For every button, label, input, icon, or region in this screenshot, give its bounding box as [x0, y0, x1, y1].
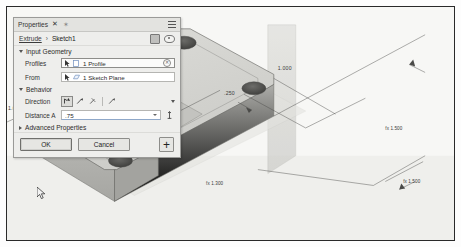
- measure-icon[interactable]: [164, 110, 175, 121]
- dimension-label-hole-diameter-upper: fx 1.500: [385, 126, 402, 131]
- dimension-label-hole-diameter-right: fx 1.300: [206, 181, 223, 186]
- panel-title: Properties: [18, 21, 48, 28]
- chevron-down-icon: [19, 88, 23, 91]
- panel-titlebar: Properties ✕ ✶: [14, 18, 180, 32]
- section-label-behavior: Behavior: [26, 86, 52, 93]
- breadcrumb-current[interactable]: Sketch1: [52, 35, 76, 42]
- section-behavior[interactable]: Behavior: [14, 84, 180, 94]
- apply-button[interactable]: +: [159, 137, 174, 152]
- hole-right[interactable]: [242, 82, 266, 95]
- field-direction[interactable]: Direction: [14, 94, 180, 108]
- field-from[interactable]: From 1 Sketch Plane: [14, 70, 180, 84]
- select-arrow-icon: [65, 60, 70, 67]
- direction-button-group[interactable]: [61, 96, 175, 107]
- direction-asymmetric-button[interactable]: [106, 96, 118, 107]
- section-input-geometry[interactable]: Input Geometry: [14, 46, 180, 56]
- breadcrumb: Extrude › Sketch1: [14, 32, 180, 46]
- field-label-profiles: Profiles: [19, 60, 61, 67]
- chevron-right-icon: [19, 126, 22, 130]
- sketch-plane-icon: [73, 74, 80, 81]
- direction-flipped-button[interactable]: [74, 96, 86, 107]
- clear-icon[interactable]: ✕: [163, 59, 171, 67]
- section-label-input-geometry: Input Geometry: [26, 48, 71, 55]
- figure-frame: .250 .250 1.000 .75: [6, 6, 455, 241]
- close-icon[interactable]: ✕: [52, 21, 58, 28]
- direction-symmetric-button[interactable]: [87, 96, 99, 107]
- breadcrumb-separator: ›: [46, 35, 48, 42]
- field-control-from[interactable]: 1 Sketch Plane: [61, 72, 175, 82]
- chevron-down-icon[interactable]: [171, 100, 175, 103]
- field-value-from: 1 Sketch Plane: [83, 74, 125, 81]
- distance-a-input[interactable]: .75: [61, 110, 161, 120]
- field-profiles[interactable]: Profiles 1 Profile ✕: [14, 56, 180, 70]
- dimension-label-hole-diameter-lower: fx 1.500: [403, 179, 420, 184]
- solid-body-icon[interactable]: [150, 34, 160, 44]
- screenshot-root: .250 .250 1.000 .75: [0, 0, 461, 247]
- visibility-eye-icon[interactable]: [164, 35, 175, 43]
- section-advanced-properties[interactable]: Advanced Properties: [14, 122, 180, 132]
- section-label-advanced-properties: Advanced Properties: [25, 124, 86, 131]
- field-distance-a[interactable]: Distance A .75: [14, 108, 180, 122]
- field-label-direction: Direction: [19, 98, 61, 105]
- dimension-label-edge-length-right: 1.000: [278, 65, 292, 71]
- field-control-profiles[interactable]: 1 Profile ✕: [61, 58, 175, 68]
- extrude-properties-panel[interactable]: Properties ✕ ✶ Extrude › Sketch1 I: [13, 17, 181, 158]
- chevron-down-icon: [19, 50, 23, 53]
- breadcrumb-parent[interactable]: Extrude: [19, 35, 42, 42]
- direction-separator: [102, 97, 103, 106]
- direction-default-button[interactable]: [61, 96, 73, 107]
- field-label-from: From: [19, 74, 61, 81]
- distance-a-value: .75: [65, 112, 74, 119]
- chevron-down-icon[interactable]: [153, 114, 157, 116]
- field-label-distance-a: Distance A: [19, 112, 61, 119]
- ok-button[interactable]: OK: [20, 138, 72, 151]
- field-value-profiles: 1 Profile: [83, 60, 106, 67]
- profile-icon: [73, 60, 80, 67]
- panel-footer: OK Cancel +: [14, 132, 180, 157]
- hamburger-menu-icon[interactable]: [168, 21, 176, 28]
- select-arrow-icon: [65, 74, 70, 81]
- pin-icon[interactable]: ✶: [63, 21, 69, 28]
- dimension-label-hole-offset-right: .250: [224, 90, 235, 96]
- cancel-button[interactable]: Cancel: [78, 138, 130, 151]
